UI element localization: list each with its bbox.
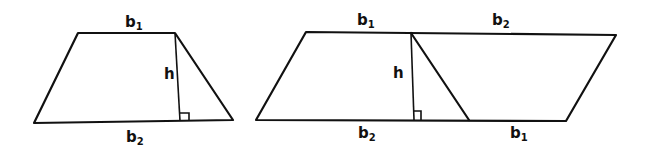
- trapezoid-height-line: [175, 33, 180, 121]
- parallelogram-bottom-right-label: b1: [510, 124, 528, 143]
- parallelogram-top-right-label: b2: [492, 11, 510, 30]
- parallelogram-right-angle-icon: [414, 111, 421, 120]
- parallelogram-outline: [256, 32, 616, 121]
- parallelogram-height-label: h: [393, 64, 404, 82]
- trapezoid-outline: [34, 33, 233, 123]
- parallelogram-top-left-label: b1: [357, 11, 375, 30]
- trapezoid-bottom-base-label: b2: [126, 128, 144, 147]
- trapezoid-top-base-label: b1: [125, 13, 143, 32]
- trapezoid-height-label: h: [164, 65, 175, 83]
- parallelogram: b1 b2 b2 b1 h: [256, 11, 616, 143]
- parallelogram-bottom-left-label: b2: [358, 124, 376, 143]
- parallelogram-diagonal-divider: [411, 33, 469, 120]
- parallelogram-height-line: [411, 33, 414, 120]
- trapezoid: b1 b2 h: [34, 13, 233, 147]
- trapezoid-area-diagram: b1 b2 h b1 b2 b2 b1 h: [0, 0, 650, 152]
